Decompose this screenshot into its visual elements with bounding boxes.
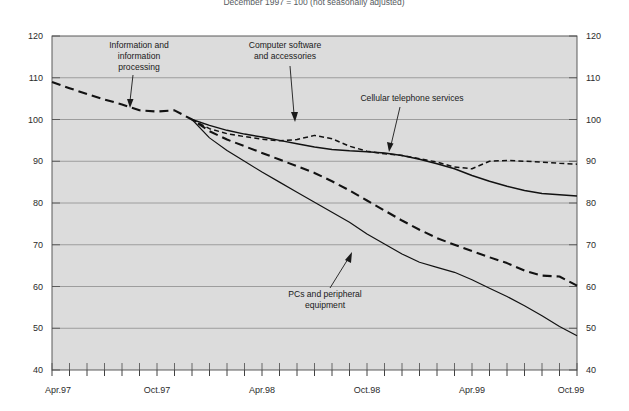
x-axis-label: Oct.98 [354, 385, 381, 395]
y-axis-label-left: 70 [33, 240, 43, 250]
y-axis-label-right: 60 [586, 282, 596, 292]
y-axis-label-left: 50 [33, 323, 43, 333]
y-axis-label-right: 50 [586, 323, 596, 333]
x-axis-label: Oct.99 [558, 385, 585, 395]
annotation-line-2: information [118, 51, 161, 61]
y-axis-label-left: 80 [33, 198, 43, 208]
annotation-line-2: equipment [305, 300, 346, 310]
y-axis-label-left: 90 [33, 156, 43, 166]
y-axis-label-right: 90 [586, 156, 596, 166]
y-axis-label-right: 100 [586, 115, 601, 125]
y-axis-label-left: 120 [28, 31, 43, 41]
x-axis-label: Apr.99 [459, 385, 485, 395]
y-axis-label-right: 80 [586, 198, 596, 208]
x-axis-label: Apr.98 [249, 385, 275, 395]
annotation-line-1: Cellular telephone services [360, 93, 463, 103]
annotation-line-3: processing [118, 62, 160, 72]
y-axis-label-right: 120 [586, 31, 601, 41]
y-axis-label-right: 110 [586, 73, 600, 83]
y-axis-label-right: 70 [586, 240, 596, 250]
chart-container: December 1997 = 100 (not seasonally adju… [0, 0, 629, 411]
y-axis-label-right: 40 [586, 365, 596, 375]
y-axis-label-left: 60 [33, 282, 43, 292]
x-axis-label: Apr.97 [45, 385, 71, 395]
annotation-line-1: Information and [109, 40, 169, 50]
y-axis-label-left: 100 [28, 115, 43, 125]
line-chart: December 1997 = 100 (not seasonally adju… [0, 0, 629, 411]
annotation-line-1: Computer software [249, 40, 322, 50]
y-axis-label-left: 110 [29, 73, 43, 83]
annotation-line-2: and accessories [254, 51, 316, 61]
x-axis-label: Oct.97 [144, 385, 171, 395]
chart-title: December 1997 = 100 (not seasonally adju… [223, 0, 404, 7]
annotation-line-1: PCs and peripheral [288, 289, 362, 299]
y-axis-label-left: 40 [33, 365, 43, 375]
